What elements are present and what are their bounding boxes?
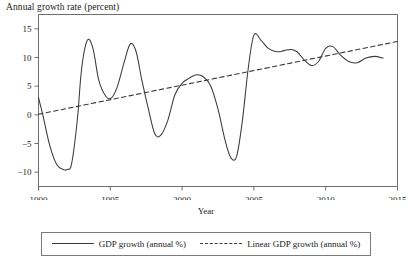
- y-axis-ticks: 151050−5−10: [17, 24, 38, 177]
- x-axis-ticks: 199019952000200520102015: [30, 187, 408, 201]
- series-gdp-growth: [39, 34, 384, 171]
- svg-text:10: 10: [23, 53, 33, 63]
- svg-text:2015: 2015: [389, 195, 408, 201]
- chart-title: Annual growth rate (percent): [6, 2, 119, 12]
- series-linear-gdp-growth: [39, 41, 398, 114]
- chart-legend: GDP growth (annual %) Linear GDP growth …: [41, 232, 371, 256]
- svg-text:15: 15: [23, 24, 33, 34]
- svg-text:2010: 2010: [317, 195, 336, 201]
- svg-text:1995: 1995: [101, 195, 120, 201]
- axis-frame: [39, 15, 398, 187]
- x-axis-title: Year: [0, 206, 412, 216]
- plot-area: 151050−5−10 199019952000200520102015: [0, 14, 412, 200]
- svg-text:2000: 2000: [173, 195, 192, 201]
- legend-item-gdp-growth: GDP growth (annual %): [52, 239, 186, 249]
- svg-text:1990: 1990: [30, 195, 49, 201]
- svg-text:−10: −10: [17, 167, 32, 177]
- legend-label-gdp-growth: GDP growth (annual %): [99, 239, 186, 249]
- data-series-layer: [39, 34, 398, 171]
- svg-text:2005: 2005: [245, 195, 264, 201]
- legend-item-linear-gdp-growth: Linear GDP growth (annual %): [200, 239, 360, 249]
- legend-dashed-line-icon: [200, 243, 242, 245]
- chart-figure: Annual growth rate (percent) 151050−5−10…: [0, 0, 412, 269]
- legend-label-linear-gdp-growth: Linear GDP growth (annual %): [247, 239, 360, 249]
- svg-text:−5: −5: [22, 139, 32, 149]
- plot-svg: 151050−5−10 199019952000200520102015: [0, 14, 412, 200]
- svg-text:0: 0: [27, 110, 32, 120]
- legend-solid-line-icon: [52, 243, 94, 245]
- svg-text:5: 5: [27, 81, 32, 91]
